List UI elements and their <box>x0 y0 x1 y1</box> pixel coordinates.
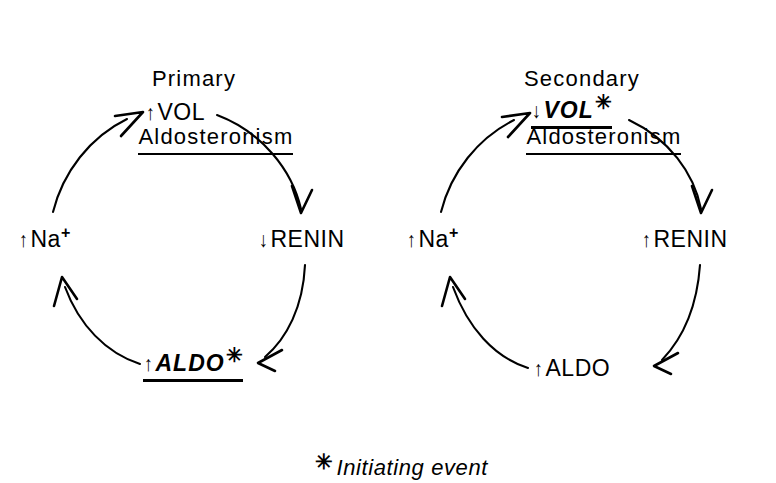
panel-title-primary: Primary Aldosteronism <box>0 6 388 184</box>
node-secondary-renin: ↑RENIN <box>641 228 728 251</box>
figure-canvas: Primary Aldosteronism ↑VOL ↓RENIN ↑ALDO✳… <box>0 0 776 483</box>
arrow-glyph-down: ↓ <box>259 228 268 251</box>
node-secondary-vol: ↓VOL✳ <box>531 99 612 129</box>
node-secondary-sodium: ↑Na+ <box>406 228 459 251</box>
node-primary-sodium: ↑Na+ <box>18 228 71 251</box>
arrow-glyph-up: ↑ <box>146 101 155 124</box>
charge-superscript: + <box>449 224 459 241</box>
arrow-glyph-up: ↑ <box>642 228 651 251</box>
node-label: ALDO <box>156 352 225 375</box>
arrow-glyph-up: ↑ <box>144 352 153 375</box>
node-underline <box>143 379 243 382</box>
node-label: VOL <box>544 99 594 122</box>
node-label: RENIN <box>654 228 728 251</box>
node-label: RENIN <box>271 228 345 251</box>
panel-title-line1: Primary <box>0 64 388 93</box>
figure-caption: ✳Initiating event <box>0 424 776 483</box>
node-underline <box>531 126 612 129</box>
node-secondary-aldo: ↑ALDO <box>533 357 610 380</box>
node-primary-vol: ↑VOL <box>145 101 205 124</box>
panel-title-secondary: Secondary Aldosteronism <box>388 6 776 184</box>
caption-text: Initiating event <box>336 455 487 480</box>
node-label: Na <box>419 228 449 251</box>
node-primary-aldo: ↑ALDO✳ <box>143 352 243 382</box>
node-label: Na <box>31 228 61 251</box>
node-label: ALDO <box>546 357 611 380</box>
arrow-glyph-down: ↓ <box>532 99 541 122</box>
asterisk-icon: ✳ <box>595 91 613 113</box>
charge-superscript: + <box>61 224 71 241</box>
asterisk-icon: ✳ <box>315 450 334 474</box>
asterisk-icon: ✳ <box>226 344 244 366</box>
node-label: VOL <box>158 101 206 124</box>
node-primary-renin: ↓RENIN <box>258 228 345 251</box>
panel-primary-aldosteronism: Primary Aldosteronism ↑VOL ↓RENIN ↑ALDO✳… <box>0 0 388 430</box>
arrow-glyph-up: ↑ <box>534 357 543 380</box>
arrow-glyph-up: ↑ <box>19 228 28 251</box>
panel-title-line1: Secondary <box>388 64 776 93</box>
arrow-glyph-up: ↑ <box>407 228 416 251</box>
panel-title-line2: Aldosteronism <box>138 122 293 155</box>
